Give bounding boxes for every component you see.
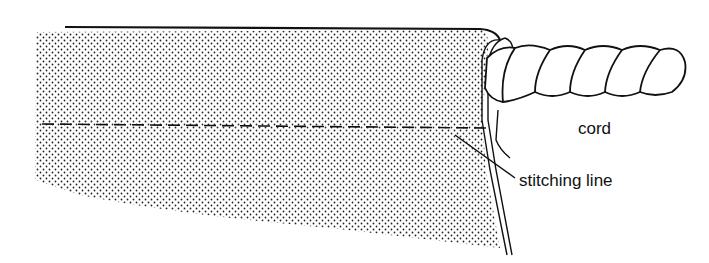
fabric-stipple bbox=[35, 30, 500, 248]
cord-label: cord bbox=[578, 120, 611, 137]
stitching-line-label: stitching line bbox=[519, 172, 613, 189]
cord-icon bbox=[485, 45, 685, 102]
